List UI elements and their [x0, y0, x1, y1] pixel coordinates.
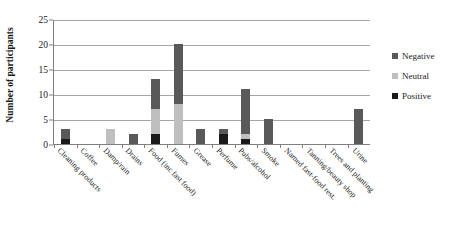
- legend-swatch-icon: [392, 93, 398, 99]
- y-axis-title-label: Number of participants: [5, 27, 15, 122]
- bar-segment[interactable]: [196, 129, 205, 144]
- bar-stack[interactable]: [264, 119, 273, 144]
- x-axis-label: Grease: [192, 146, 214, 168]
- bar-stack[interactable]: [61, 129, 70, 144]
- bar-segment[interactable]: [129, 134, 138, 144]
- legend-item[interactable]: Positive: [392, 90, 462, 101]
- chart-legend: NegativeNeutralPositive: [392, 50, 462, 110]
- bar-stack[interactable]: [241, 89, 250, 144]
- bar-slot[interactable]: [325, 20, 348, 144]
- legend-label: Neutral: [402, 71, 429, 81]
- bar-stack[interactable]: [129, 134, 138, 144]
- bar-stack[interactable]: [151, 79, 160, 144]
- x-axis-labels: Cleaning productsCoffeeDamp/rainDrainsFo…: [53, 146, 370, 226]
- bar-segment[interactable]: [241, 139, 250, 144]
- bar-slot[interactable]: [77, 20, 100, 144]
- bar-slot[interactable]: [235, 20, 258, 144]
- bar-segment[interactable]: [174, 104, 183, 144]
- bar-segment[interactable]: [264, 119, 273, 144]
- bar-segment[interactable]: [219, 134, 228, 144]
- bar-stack[interactable]: [106, 129, 115, 144]
- plot-area: 0510152025: [53, 20, 370, 145]
- bar-slot[interactable]: [189, 20, 212, 144]
- legend-label: Positive: [402, 91, 431, 101]
- bar-stack[interactable]: [354, 109, 363, 144]
- legend-label: Negative: [402, 51, 434, 61]
- bar-stack[interactable]: [196, 129, 205, 144]
- legend-swatch-icon: [392, 53, 398, 59]
- legend-item[interactable]: Negative: [392, 50, 462, 61]
- bar-slot[interactable]: [212, 20, 235, 144]
- bar-segment[interactable]: [106, 129, 115, 144]
- bar-series-group: [54, 20, 370, 144]
- bar-segment[interactable]: [61, 139, 70, 144]
- bar-stack[interactable]: [219, 129, 228, 144]
- bar-slot[interactable]: [257, 20, 280, 144]
- bar-slot[interactable]: [302, 20, 325, 144]
- bar-segment[interactable]: [61, 129, 70, 139]
- bar-stack[interactable]: [174, 44, 183, 144]
- bar-segment[interactable]: [174, 44, 183, 104]
- legend-item[interactable]: Neutral: [392, 70, 462, 81]
- bar-slot[interactable]: [167, 20, 190, 144]
- legend-swatch-icon: [392, 73, 398, 79]
- bar-slot[interactable]: [280, 20, 303, 144]
- bar-segment[interactable]: [354, 109, 363, 144]
- bar-segment[interactable]: [151, 134, 160, 144]
- bar-segment[interactable]: [241, 89, 250, 134]
- bar-slot[interactable]: [122, 20, 145, 144]
- x-axis-label: Perfume: [214, 146, 240, 172]
- bar-slot[interactable]: [99, 20, 122, 144]
- x-axis-label: Smoke: [260, 146, 282, 168]
- bar-segment[interactable]: [151, 79, 160, 109]
- x-axis-label: Urine: [350, 146, 369, 165]
- y-axis-title: Number of participants: [0, 0, 20, 150]
- x-axis-label: Fumes: [169, 146, 190, 167]
- x-axis-label: Coffee: [79, 146, 101, 168]
- bar-chart: Number of participants 0510152025 Cleani…: [0, 0, 463, 226]
- bar-slot[interactable]: [144, 20, 167, 144]
- bar-segment[interactable]: [151, 109, 160, 134]
- bar-slot[interactable]: [54, 20, 77, 144]
- bar-slot[interactable]: [348, 20, 371, 144]
